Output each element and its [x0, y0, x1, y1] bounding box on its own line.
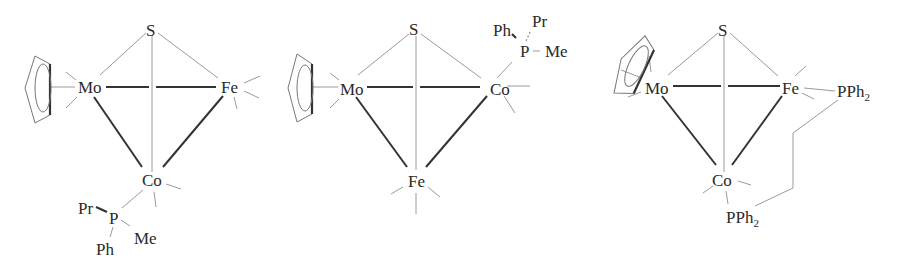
atom-mo: Mo	[78, 78, 102, 97]
group-pph2-bottom: PPh2	[726, 208, 759, 229]
atom-fe: Fe	[408, 172, 425, 191]
co-ligand-stub	[244, 91, 259, 98]
bond-mo-fe	[356, 97, 407, 167]
group-pph2-right: PPh2	[837, 82, 870, 103]
atom-mo: Mo	[645, 79, 669, 98]
substituent-me: Me	[134, 229, 157, 248]
atom-p: P	[520, 42, 529, 61]
bond-p-pr-hash	[526, 30, 531, 41]
bond-mo-co	[94, 97, 142, 167]
atom-p: P	[109, 209, 118, 228]
co-ligand-stub	[234, 97, 237, 109]
reaction-figure: S Mo Fe Co P Pr Me Ph	[0, 0, 903, 261]
cyclopentadienyl-ring	[288, 54, 313, 122]
bond-p-pr-wedge	[96, 207, 107, 212]
atom-s: S	[146, 21, 155, 40]
bond-co-fe	[426, 96, 487, 167]
co-ligand-stub	[738, 181, 751, 185]
bond-fe-p	[804, 88, 835, 91]
atom-co: Co	[490, 80, 510, 99]
atom-mo: Mo	[340, 80, 364, 99]
co-ligand-stub	[795, 66, 806, 76]
bond-co-p	[497, 62, 512, 78]
cluster-1: S Mo Fe Co P Pr Me Ph	[25, 21, 260, 259]
co-ligand-stub	[802, 93, 814, 99]
atom-fe: Fe	[782, 79, 799, 98]
bond-co-p	[122, 190, 143, 208]
bond-p-me	[121, 220, 130, 226]
atom-fe: Fe	[221, 78, 238, 97]
atom-s: S	[409, 20, 418, 39]
substituent-pr: Pr	[532, 12, 547, 31]
substituent-ph: Ph	[493, 21, 511, 40]
bond-s-mo	[100, 33, 146, 75]
substituent-pr: Pr	[78, 199, 93, 218]
bond-s-mo	[668, 33, 718, 75]
bond-s-co	[421, 34, 481, 78]
co-ligand-stub	[391, 187, 403, 194]
substituent-me: Me	[545, 42, 568, 61]
atom-s: S	[718, 21, 727, 40]
bond-s-fe	[158, 33, 218, 78]
bond-fe-co	[163, 96, 223, 167]
substituent-ph: Ph	[96, 240, 114, 259]
co-ligand-stub	[330, 99, 339, 108]
co-ligand-stub	[66, 72, 76, 80]
cyclopentadienyl-ring	[25, 56, 51, 123]
cluster-3: S Mo Fe Co PPh2 PPh2	[607, 21, 870, 229]
mo-cp-bond	[621, 70, 642, 78]
bond-s-mo	[358, 34, 409, 75]
co-ligand-stub	[66, 97, 77, 108]
bond-fe-co	[732, 96, 782, 165]
bond-p-ph	[110, 227, 113, 237]
bond-co-p	[726, 191, 728, 204]
bond-s-fe	[730, 33, 778, 76]
bond-mo-co	[662, 96, 716, 165]
co-ligand-stub	[428, 187, 440, 197]
co-ligand-stub	[244, 76, 260, 83]
co-ligand-stub	[330, 73, 339, 80]
co-ligand-stub	[154, 192, 156, 207]
bond-p-ph-wedge	[512, 34, 516, 38]
atom-co: Co	[142, 171, 162, 190]
atom-co: Co	[712, 171, 732, 190]
cluster-2: S Mo Co Fe P Ph Pr Me	[288, 12, 568, 214]
co-ligand-stub	[166, 184, 181, 189]
